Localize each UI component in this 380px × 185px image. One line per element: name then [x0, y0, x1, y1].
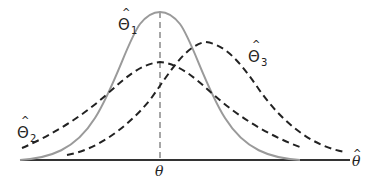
curve-theta2	[22, 62, 300, 148]
axis-label-theta-hat: ^ θ	[352, 148, 361, 169]
label-theta2: ^ Θ 2	[17, 115, 36, 144]
svg-text:Θ: Θ	[248, 48, 260, 66]
label-theta3: ^ Θ 3	[248, 39, 267, 68]
svg-text:Θ: Θ	[17, 124, 29, 142]
true-value-label: θ	[155, 163, 164, 179]
svg-text:3: 3	[261, 57, 267, 68]
label-theta1: ^ Θ 1	[118, 7, 137, 36]
svg-text:2: 2	[30, 133, 36, 144]
curve-theta3	[67, 42, 345, 155]
svg-text:θ: θ	[352, 153, 361, 169]
svg-text:1: 1	[131, 25, 137, 36]
svg-text:Θ: Θ	[118, 16, 130, 34]
estimator-distributions-diagram: ^ Θ 1 ^ Θ 2 ^ Θ 3 θ ^ θ	[0, 0, 380, 185]
